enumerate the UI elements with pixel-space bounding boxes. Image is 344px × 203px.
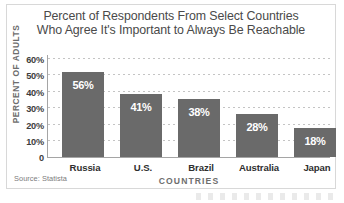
- x-axis-title: COUNTRIES: [48, 176, 330, 186]
- plot-area: 56% 41% 38% 28% 18%: [48, 58, 330, 157]
- bar-brazil[interactable]: 38%: [178, 99, 220, 157]
- bar-australia[interactable]: 28%: [236, 114, 278, 157]
- source-note: Source: Statista: [14, 174, 67, 183]
- gridline-60: [48, 58, 330, 59]
- bar-value-us: 41%: [120, 101, 162, 113]
- y-axis-tick-labels: 60% 50% 40% 30% 20% 10% 0: [6, 0, 44, 203]
- y-tick-label-10: 10%: [10, 137, 44, 147]
- chart-figure: Percent of Respondents From Select Count…: [0, 0, 344, 203]
- bar-russia[interactable]: 56%: [62, 72, 104, 157]
- y-tick-label-50: 50%: [10, 71, 44, 81]
- bar-value-australia: 28%: [236, 121, 278, 133]
- chart-title-line-1: Percent of Respondents From Select Count…: [10, 9, 332, 23]
- bar-value-russia: 56%: [62, 79, 104, 91]
- chart-title-line-2: Who Agree It's Important to Always Be Re…: [10, 23, 332, 37]
- x-axis-line: [48, 157, 330, 158]
- bar-value-japan: 18%: [294, 135, 336, 147]
- chart-title: Percent of Respondents From Select Count…: [10, 9, 332, 37]
- y-tick-label-30: 30%: [10, 104, 44, 114]
- y-tick-label-60: 60%: [10, 55, 44, 65]
- bar-us[interactable]: 41%: [120, 94, 162, 157]
- bar-value-brazil: 38%: [178, 106, 220, 118]
- scan-artifact: [196, 193, 338, 200]
- y-tick-label-20: 20%: [10, 121, 44, 131]
- y-tick-label-40: 40%: [10, 88, 44, 98]
- bar-japan[interactable]: 18%: [294, 128, 336, 157]
- y-tick-label-0: 0: [10, 153, 44, 163]
- x-tick-label-japan: Japan: [274, 162, 344, 173]
